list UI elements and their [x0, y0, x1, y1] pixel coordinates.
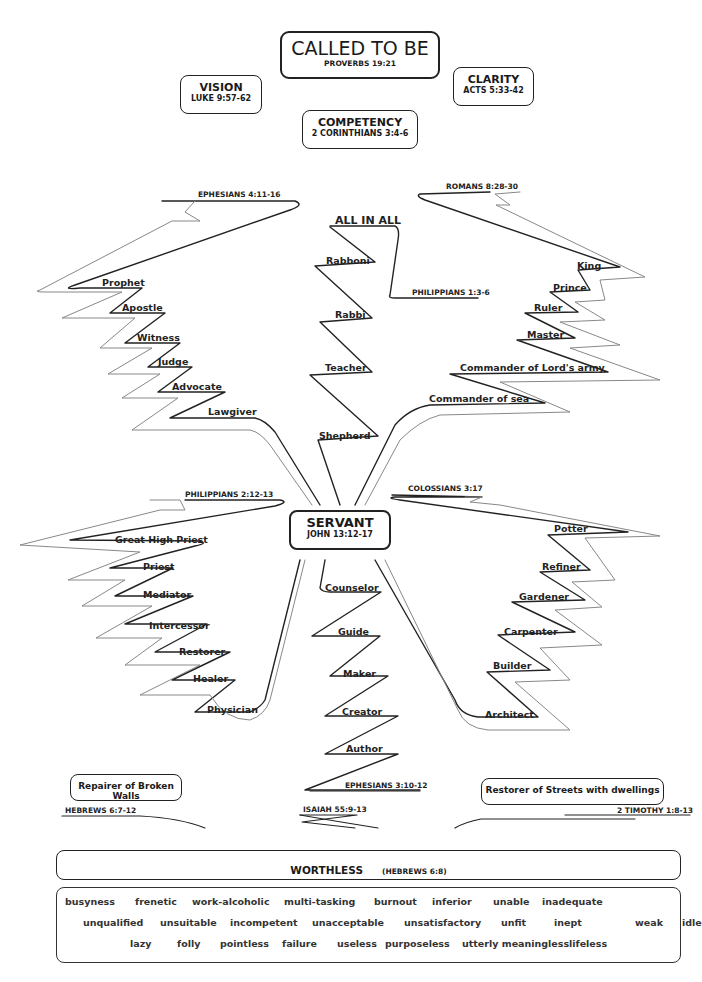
item-healer: Healer	[193, 674, 228, 684]
item-author: Author	[346, 744, 383, 754]
item-commander-of-sea: Commander of sea	[429, 394, 529, 404]
word: burnout	[374, 896, 417, 907]
repairer-box: Repairer of Broken Walls	[70, 774, 182, 801]
item-gardener: Gardener	[519, 592, 569, 602]
word: multi-tasking	[284, 896, 355, 907]
words-row-2: unqualified unsuitable incompetent unacc…	[57, 917, 680, 931]
worthless-box: WORTHLESS (HEBREWS 6:8)	[56, 850, 681, 880]
word: incompetent	[230, 917, 298, 928]
worthless-ref: (HEBREWS 6:8)	[382, 867, 447, 876]
item-mediator: Mediator	[143, 590, 191, 600]
word: idle	[682, 917, 702, 928]
called-to-be-box: CALLED TO BE PROVERBS 19:21	[280, 31, 440, 79]
item-commander-lords-army: Commander of Lord's army	[460, 363, 605, 373]
item-architect: Architect	[485, 710, 534, 720]
item-intercessor: Intercessor	[149, 621, 210, 631]
item-counselor: Counselor	[325, 583, 379, 593]
restorer-streets-label: Restorer of Streets with dwellings	[482, 786, 663, 796]
item-judge: Judge	[158, 357, 188, 367]
word: inept	[554, 917, 582, 928]
word: pointless	[220, 938, 269, 949]
restorer-streets-box: Restorer of Streets with dwellings	[481, 778, 664, 805]
ref-ephesians-4: EPHESIANS 4:11-16	[198, 191, 281, 199]
vision-title: VISION	[181, 82, 261, 94]
words-row-1: busyness frenetic work-alcoholic multi-t…	[57, 896, 680, 910]
item-teacher: Teacher	[325, 363, 367, 373]
ref-philippians-1: PHILIPPIANS 1:3-6	[412, 289, 490, 297]
word: useless	[337, 938, 377, 949]
vision-ref: LUKE 9:57-62	[181, 94, 261, 104]
word: work-alcoholic	[192, 896, 270, 907]
called-to-be-ref: PROVERBS 19:21	[282, 59, 438, 68]
item-rabbi: Rabbi	[335, 310, 366, 320]
word: lifeless	[569, 938, 607, 949]
vision-box: VISION LUKE 9:57-62	[180, 75, 262, 114]
clarity-box: CLARITY ACTS 5:33-42	[453, 67, 534, 106]
worthless-title: WORTHLESS	[290, 864, 363, 876]
item-great-high-priest: Great High Priest	[115, 535, 208, 545]
item-physician: Physician	[207, 705, 258, 715]
item-priest: Priest	[143, 562, 175, 572]
item-lawgiver: Lawgiver	[208, 407, 257, 417]
item-shepherd: Shepherd	[319, 431, 371, 441]
clarity-ref: ACTS 5:33-42	[454, 86, 533, 96]
item-guide: Guide	[338, 627, 369, 637]
item-restorer: Restorer	[179, 647, 225, 657]
item-creator: Creator	[342, 707, 382, 717]
competency-ref: 2 CORINTHIANS 3:4-6	[303, 129, 417, 139]
ref-colossians-3: COLOSSIANS 3:17	[408, 485, 483, 493]
item-carpenter: Carpenter	[504, 627, 558, 637]
word: purposeless	[385, 938, 450, 949]
word: busyness	[65, 896, 115, 907]
word: folly	[177, 938, 200, 949]
word: utterly meaningless	[462, 938, 569, 949]
word: failure	[282, 938, 317, 949]
word: unsuitable	[160, 917, 217, 928]
ref-2-timothy-1: 2 TIMOTHY 1:8-13	[617, 807, 693, 815]
item-advocate: Advocate	[172, 382, 222, 392]
servant-ref: JOHN 13:12-17	[291, 530, 389, 540]
servant-box: SERVANT JOHN 13:12-17	[289, 510, 391, 550]
item-king: King	[577, 261, 601, 271]
competency-box: COMPETENCY 2 CORINTHIANS 3:4-6	[302, 110, 418, 149]
word: unable	[493, 896, 529, 907]
repairer-label: Repairer of Broken Walls	[71, 782, 181, 802]
item-prince: Prince	[553, 283, 587, 293]
ref-hebrews-6: HEBREWS 6:7-12	[65, 807, 136, 815]
servant-title: SERVANT	[291, 516, 389, 530]
word: frenetic	[135, 896, 177, 907]
item-refiner: Refiner	[542, 562, 581, 572]
item-prophet: Prophet	[102, 278, 145, 288]
item-rabboni: Rabboni	[326, 256, 370, 266]
word: unfit	[501, 917, 526, 928]
ref-philippians-2: PHILIPPIANS 2:12-13	[185, 491, 273, 499]
item-maker: Maker	[343, 669, 376, 679]
competency-title: COMPETENCY	[303, 117, 417, 129]
heading-all-in-all: ALL IN ALL	[335, 215, 401, 226]
word: lazy	[130, 938, 151, 949]
called-to-be-title: CALLED TO BE	[282, 38, 438, 59]
item-witness: Witness	[137, 333, 180, 343]
word: inferior	[432, 896, 472, 907]
item-builder: Builder	[493, 661, 531, 671]
ref-ephesians-3: EPHESIANS 3:10-12	[345, 782, 428, 790]
word: weak	[635, 917, 663, 928]
clarity-title: CLARITY	[454, 74, 533, 86]
item-master: Master	[527, 330, 564, 340]
word: unsatisfactory	[404, 917, 481, 928]
word: inadequate	[542, 896, 603, 907]
words-row-3: lazy folly pointless failure useless pur…	[57, 938, 680, 952]
word: unqualified	[83, 917, 143, 928]
ref-isaiah-55: ISAIAH 55:9-13	[303, 806, 367, 814]
word: unacceptable	[312, 917, 384, 928]
ref-romans-8: ROMANS 8:28-30	[446, 183, 518, 191]
item-apostle: Apostle	[122, 303, 163, 313]
item-ruler: Ruler	[534, 303, 562, 313]
worthless-words-box: busyness frenetic work-alcoholic multi-t…	[56, 887, 681, 963]
item-potter: Potter	[554, 524, 588, 534]
